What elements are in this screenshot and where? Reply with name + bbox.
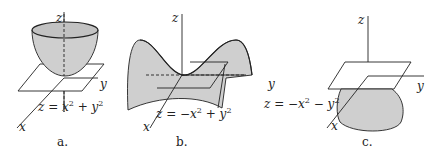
z-axis-label-b: z	[172, 12, 178, 24]
x-axis-label-b: x	[143, 121, 150, 133]
equation-a: z = x2 + y2	[38, 100, 103, 113]
y-axis-label-a: y	[100, 78, 107, 90]
caption-a: a.	[57, 136, 68, 148]
y-axis-label-b: y	[268, 78, 275, 90]
paraboloid-surface	[337, 89, 403, 131]
panel-c-graphic	[327, 16, 424, 131]
y-axis-label-c: y	[417, 80, 424, 92]
x-axis-label-a: x	[19, 121, 26, 133]
xy-plane	[328, 62, 411, 89]
equation-c: z = −x2 − y2	[264, 97, 339, 110]
z-axis-label-c: z	[358, 14, 364, 26]
z-axis-label-a: z	[56, 12, 62, 24]
x-axis-label-c: x	[331, 120, 338, 132]
equation-b: z = −x2 + y2	[156, 107, 231, 120]
caption-c: c.	[362, 136, 373, 148]
figure-canvas	[0, 0, 438, 154]
caption-b: b.	[176, 136, 188, 148]
